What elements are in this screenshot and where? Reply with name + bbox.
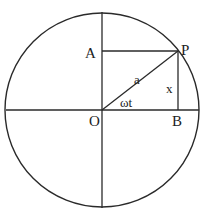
label-a: A: [85, 45, 96, 61]
label-p: P: [181, 42, 189, 58]
label-b: B: [172, 113, 182, 129]
label-o: O: [89, 113, 100, 129]
label-angle: ωt: [120, 95, 133, 110]
label-height: x: [166, 81, 173, 96]
circle-diagram: P A O B a x ωt: [0, 0, 202, 212]
label-radius: a: [134, 72, 140, 87]
